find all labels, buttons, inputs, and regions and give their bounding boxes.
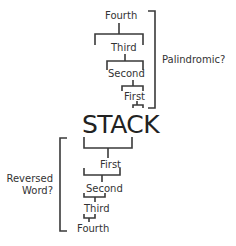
bottom-item-fourth: Fourth bbox=[77, 223, 109, 234]
reversed-label-line1: Reversed bbox=[6, 173, 53, 184]
palindromic-label: Palindromic? bbox=[162, 54, 225, 65]
stack-title: STACK bbox=[82, 112, 159, 138]
bracket-line bbox=[133, 105, 143, 108]
reversed-label-line2: Word? bbox=[22, 185, 53, 196]
palindromic-bracket bbox=[148, 11, 155, 108]
top-item-fourth: Fourth bbox=[105, 10, 137, 21]
top-item-third: Third bbox=[111, 42, 137, 53]
bracket-line bbox=[84, 214, 95, 218]
top-item-second: Second bbox=[108, 68, 145, 79]
bottom-item-second: Second bbox=[86, 183, 123, 194]
bottom-item-first: First bbox=[100, 159, 121, 170]
bottom-item-third: Third bbox=[84, 203, 110, 214]
reversed-bracket bbox=[60, 138, 67, 231]
top-item-first: First bbox=[124, 91, 145, 102]
